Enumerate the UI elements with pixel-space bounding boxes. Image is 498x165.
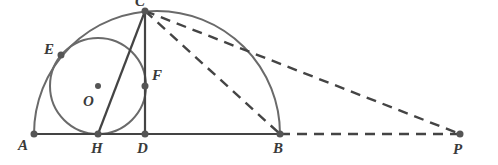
point-o (95, 83, 101, 89)
geometry-diagram: A H D B P C E F O (0, 0, 498, 165)
point-e (58, 52, 65, 59)
segment-cb-dashed (145, 11, 280, 134)
point-h (95, 131, 102, 138)
label-c: C (135, 0, 146, 9)
point-d (142, 131, 149, 138)
segment-cp-dashed (145, 11, 460, 134)
label-h: H (90, 140, 104, 156)
label-b: B (272, 140, 283, 156)
point-b (277, 131, 284, 138)
label-d: D (136, 140, 148, 156)
point-f (142, 83, 149, 90)
label-p: P (453, 141, 463, 157)
point-p (457, 131, 464, 138)
label-f: F (151, 67, 162, 83)
label-a: A (17, 137, 28, 153)
segment-ch (98, 11, 145, 134)
label-e: E (43, 41, 54, 57)
point-a (31, 131, 38, 138)
label-o: O (83, 93, 94, 109)
